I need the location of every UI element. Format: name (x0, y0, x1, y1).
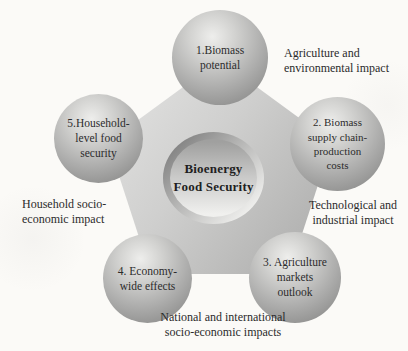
node-biomass-supply-chain-label: 2. Biomass supply chain- production cost… (308, 115, 368, 172)
node-household-food-security: 5.Household- level food security (54, 94, 143, 183)
node-household-food-security-label: 5.Household- level food security (67, 116, 129, 161)
node-economy-wide-effects-label: 4. Economy- wide effects (118, 264, 177, 294)
label-technological-industrial-impact: Technological and industrial impact (303, 198, 403, 229)
center-circle: Bioenergy Food Security (170, 139, 257, 217)
node-biomass-potential: 1.Biomass potential (172, 10, 268, 105)
label-agriculture-environmental-impact: Agriculture and environmental impact (284, 46, 389, 77)
node-agriculture-markets-label: 3. Agriculture markets outlook (263, 255, 327, 300)
center-circle-ring: Bioenergy Food Security (163, 132, 264, 224)
node-biomass-potential-label: 1.Biomass potential (196, 43, 244, 73)
node-biomass-supply-chain: 2. Biomass supply chain- production cost… (290, 97, 385, 191)
diagram-canvas: Bioenergy Food Security 1.Biomass potent… (0, 0, 408, 351)
label-national-international-impacts: National and international socio-economi… (140, 310, 306, 341)
label-household-socio-economic-impact: Household socio- economic impact (22, 197, 106, 228)
center-label: Bioenergy Food Security (173, 160, 253, 195)
